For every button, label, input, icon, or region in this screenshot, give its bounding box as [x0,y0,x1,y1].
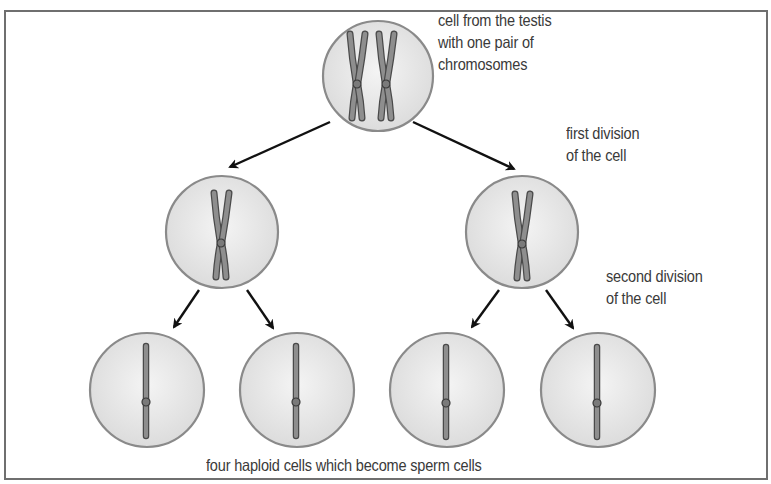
first-division-label-line: first division [566,122,639,144]
arrow-parent-to-right [413,122,514,169]
chromosome-icon [292,346,300,436]
second-division-label-line: second division [606,265,703,287]
first-division-label-line: of the cell [566,144,639,166]
parent-cell-label-line: chromosomes [438,53,551,75]
sperm-cell-3 [390,333,504,447]
parent-cell [323,21,433,131]
arrow-right-to-sperm4 [546,290,573,328]
first-division-label: first division of the cell [566,122,639,166]
sperm-cell-4 [541,333,655,447]
parent-cell-label: cell from the testis with one pair of ch… [438,9,551,75]
arrow-left-to-sperm2 [247,290,273,328]
arrow-parent-to-left [230,122,330,167]
daughter-cell-right [466,176,578,288]
arrow-left-to-sperm1 [174,290,199,327]
caption: four haploid cells which become sperm ce… [206,454,482,476]
sperm-cell-2 [240,333,354,447]
caption-text: four haploid cells which become sperm ce… [206,454,482,476]
parent-cell-label-line: cell from the testis [438,9,551,31]
meiosis-diagram [0,0,771,484]
chromosome-icon [593,347,601,437]
chromosome-icon [142,346,150,436]
second-division-label: second division of the cell [606,265,703,309]
arrow-right-to-sperm3 [472,290,499,327]
sperm-cell-1 [90,333,204,447]
chromosome-icon [442,347,450,437]
daughter-cell-left [166,176,278,288]
second-division-label-line: of the cell [606,287,703,309]
parent-cell-label-line: with one pair of [438,31,551,53]
